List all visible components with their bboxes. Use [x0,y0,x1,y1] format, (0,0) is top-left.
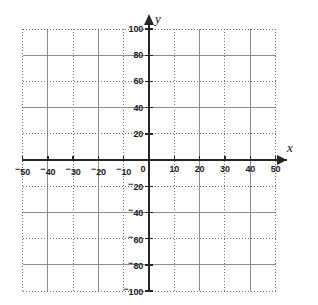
tick-digits: 80 [133,261,143,271]
y-axis-tick-label: 20 [133,129,143,138]
tick-digits: 40 [245,164,255,174]
y-axis-tick-label: −40 [128,207,143,219]
y-axis-tick-label: −60 [128,233,143,245]
tick-digits: 60 [133,76,143,86]
x-axis-tick-label: 0 [141,165,146,174]
tick-digits: 20 [96,167,106,177]
x-axis-tick-label: −20 [91,165,106,177]
coordinate-plane-svg [0,0,318,305]
tick-digits: 20 [195,164,205,174]
x-axis-tick-label: 20 [195,165,205,174]
tick-digits: 20 [133,128,143,138]
tick-digits: 40 [133,208,143,218]
x-axis-tick-label: 40 [245,165,255,174]
tick-digits: 60 [133,234,143,244]
x-axis-tick-label: −10 [116,165,131,177]
y-axis-tick-label: −100 [123,285,143,297]
tick-digits: 50 [271,164,281,174]
axis-lines [22,16,287,292]
y-axis-tick-label: 80 [133,51,143,60]
x-axis-tick-label: 50 [271,165,281,174]
tick-digits: 40 [46,167,56,177]
x-axis-label: x [287,141,293,154]
y-axis-tick-label: 60 [133,77,143,86]
tick-digits: 20 [133,182,143,192]
x-axis-tick-label: −30 [66,165,81,177]
tick-digits: 10 [169,164,179,174]
coordinate-grid-figure: −50−40−30−20−1001020304050 10080604020−2… [0,0,318,305]
y-axis-tick-label: 100 [129,25,143,34]
y-axis-tick-label: −80 [128,259,143,271]
tick-digits: 10 [122,167,132,177]
tick-digits: 30 [220,164,230,174]
tick-digits: 80 [133,50,143,60]
y-axis-tick-label: −20 [128,180,143,192]
tick-digits: 50 [20,167,30,177]
x-axis-tick-label: −50 [15,165,30,177]
y-axis-arrowhead [144,14,154,25]
tick-digits: 100 [129,287,143,297]
x-axis-tick-label: 30 [220,165,230,174]
tick-digits: 100 [129,24,143,34]
tick-digits: 30 [71,167,81,177]
x-axis-tick-label: −40 [40,165,55,177]
tick-digits: 0 [141,164,146,174]
y-axis-label: y [155,12,161,25]
axis-arrowheads [144,14,287,165]
y-axis-tick-label: 40 [133,103,143,112]
x-axis-tick-label: 10 [169,165,179,174]
tick-digits: 40 [133,102,143,112]
